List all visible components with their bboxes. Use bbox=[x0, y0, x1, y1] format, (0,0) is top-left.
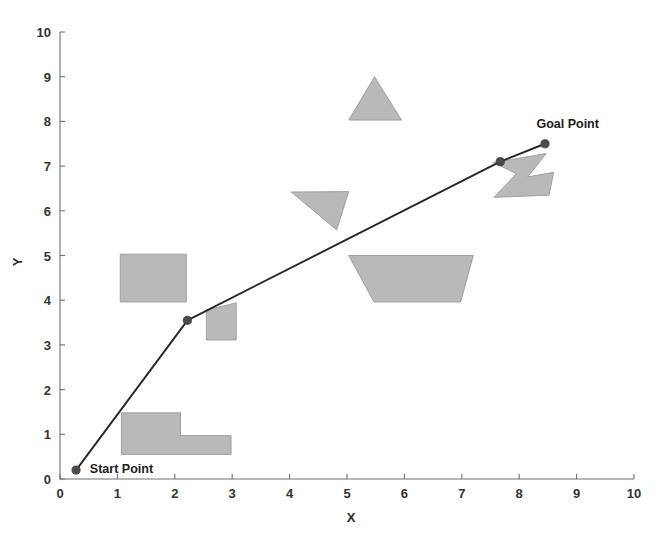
y-tick-label: 7 bbox=[44, 159, 51, 174]
y-tick-label: 10 bbox=[37, 25, 51, 40]
y-tick-label: 0 bbox=[44, 472, 51, 487]
x-tick-label: 0 bbox=[56, 486, 63, 501]
x-tick-label: 1 bbox=[114, 486, 121, 501]
plot-canvas: 012345678910 012345678910 Start PointGoa… bbox=[0, 0, 664, 533]
path-node bbox=[496, 158, 504, 166]
trapezoid-obstacle bbox=[349, 256, 474, 302]
y-tick-label: 9 bbox=[44, 70, 51, 85]
x-tick-label: 6 bbox=[401, 486, 408, 501]
x-tick-label: 10 bbox=[627, 486, 641, 501]
l-shape-obstacle bbox=[121, 413, 231, 455]
y-tick-labels: 012345678910 bbox=[37, 25, 52, 487]
y-tick-label: 1 bbox=[44, 427, 51, 442]
x-tick-label: 9 bbox=[573, 486, 580, 501]
path-planning-chart: 012345678910 012345678910 Start PointGoa… bbox=[0, 0, 664, 533]
x-tick-label: 4 bbox=[286, 486, 294, 501]
start-point-label: Start Point bbox=[90, 462, 154, 476]
y-tick-label: 4 bbox=[44, 293, 52, 308]
rectangle-obstacle bbox=[120, 254, 186, 302]
x-tick-label: 2 bbox=[171, 486, 178, 501]
y-axis-title: Y bbox=[10, 257, 25, 266]
x-tick-label: 5 bbox=[343, 486, 350, 501]
path-node bbox=[541, 140, 549, 148]
y-tick-label: 6 bbox=[44, 204, 51, 219]
triangle-obstacle bbox=[349, 77, 402, 120]
x-tick-label: 7 bbox=[458, 486, 465, 501]
x-tick-label: 8 bbox=[516, 486, 523, 501]
x-tick-labels: 012345678910 bbox=[56, 486, 641, 501]
y-tick-label: 2 bbox=[44, 383, 51, 398]
thin-triangle-obstacle bbox=[291, 192, 348, 230]
x-axis-title: X bbox=[347, 510, 356, 525]
path-node bbox=[72, 466, 80, 474]
path-node bbox=[183, 316, 191, 324]
y-tick-label: 8 bbox=[44, 114, 51, 129]
goal-point-label: Goal Point bbox=[536, 117, 599, 131]
x-tick-label: 3 bbox=[229, 486, 236, 501]
obstacles-layer bbox=[120, 77, 553, 455]
y-tick-label: 5 bbox=[44, 249, 51, 264]
y-tick-label: 3 bbox=[44, 338, 51, 353]
